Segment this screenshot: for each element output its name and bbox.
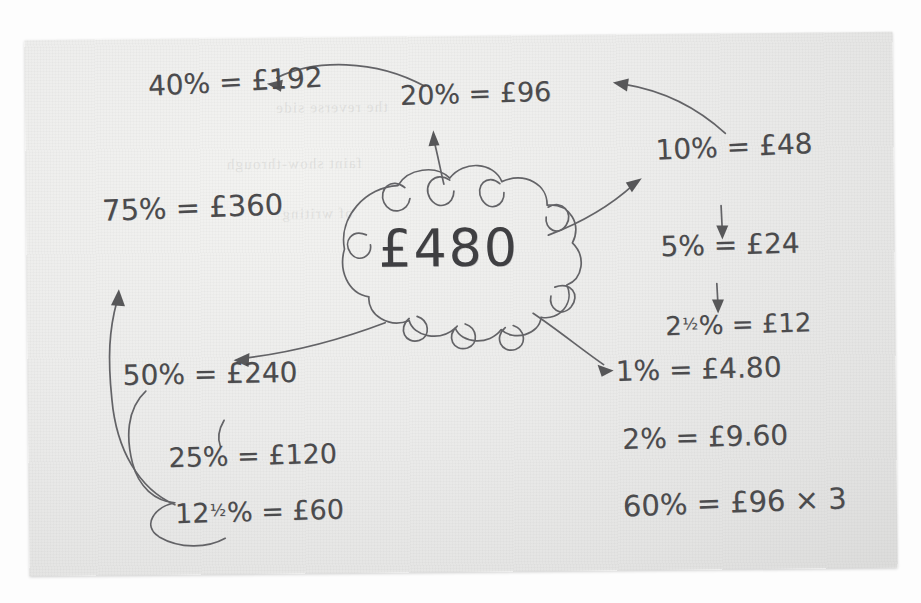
note-20-percent: 20% = £96	[400, 78, 552, 109]
note-10-percent: 10% = £48	[655, 130, 813, 165]
arrow-brace-to-75pct-head	[111, 289, 125, 306]
cloud-loop-bottom-3	[499, 325, 523, 350]
cloud-loop-bottom-1	[403, 316, 427, 341]
screenshot-canvas: the reverse side faint show-through of w…	[0, 0, 921, 603]
note-40-percent: 40% = £192	[147, 64, 323, 101]
note-2-half-tail: % = £12	[698, 307, 811, 340]
note-2-percent: 2% = £9.60	[622, 421, 789, 453]
ink-layer: £480 40% = £192 20% = £96 75% = £360 50%…	[24, 32, 897, 576]
arrow-cloud-to-50pct-line	[245, 323, 385, 358]
arrow-brace-to-75pct-line	[109, 301, 175, 506]
note-12-half-percent: 12½% = £60	[175, 496, 345, 528]
arrow-10pct-to-20pct-line	[625, 83, 725, 134]
cloud-loop-right-2	[550, 285, 575, 311]
cloud-loop-bottom-2	[451, 324, 475, 349]
cloud-loop-top-1	[382, 183, 410, 211]
note-25-percent: 25% = £120	[168, 440, 337, 472]
arrow-cloud-to-10pct-line	[548, 184, 634, 235]
cloud-loop-left-1	[347, 233, 370, 258]
note-50-percent: 50% = £240	[122, 359, 297, 390]
arrow-cloud-to-20pct-head	[428, 130, 439, 146]
paper-sheet: the reverse side faint show-through of w…	[24, 32, 897, 576]
note-2-half-fraction: ½	[682, 316, 698, 333]
cloud-loop-top-3	[479, 179, 504, 206]
cloud-loop-right-1	[546, 205, 569, 232]
note-2-half-percent: 2½% = £12	[665, 309, 812, 339]
note-1-percent: 1% = £4.80	[615, 353, 782, 385]
note-12-half-fraction: ½	[210, 502, 227, 519]
note-2-half-lead: 2	[665, 311, 682, 341]
arrow-10pct-to-5pct-line	[721, 205, 722, 231]
note-60-percent: 60% = £96 × 3	[622, 484, 847, 521]
arrow-cloud-to-1pct-head	[598, 365, 614, 377]
arrow-5pct-to-2half-line	[717, 284, 718, 306]
arrow-10pct-to-20pct-head	[613, 78, 629, 91]
note-12-half-tail: % = £60	[226, 494, 344, 528]
arrow-cloud-to-10pct-head	[626, 178, 642, 192]
note-12-half-lead: 12	[175, 497, 210, 529]
arrow-cloud-to-20pct-line	[433, 138, 443, 184]
note-75-percent: 75% = £360	[102, 190, 284, 225]
cloud-loop-top-2	[427, 177, 454, 206]
note-5-percent: 5% = £24	[660, 230, 800, 262]
center-amount-480: £480	[378, 217, 519, 278]
arrow-cloud-to-1pct-line	[533, 313, 603, 366]
